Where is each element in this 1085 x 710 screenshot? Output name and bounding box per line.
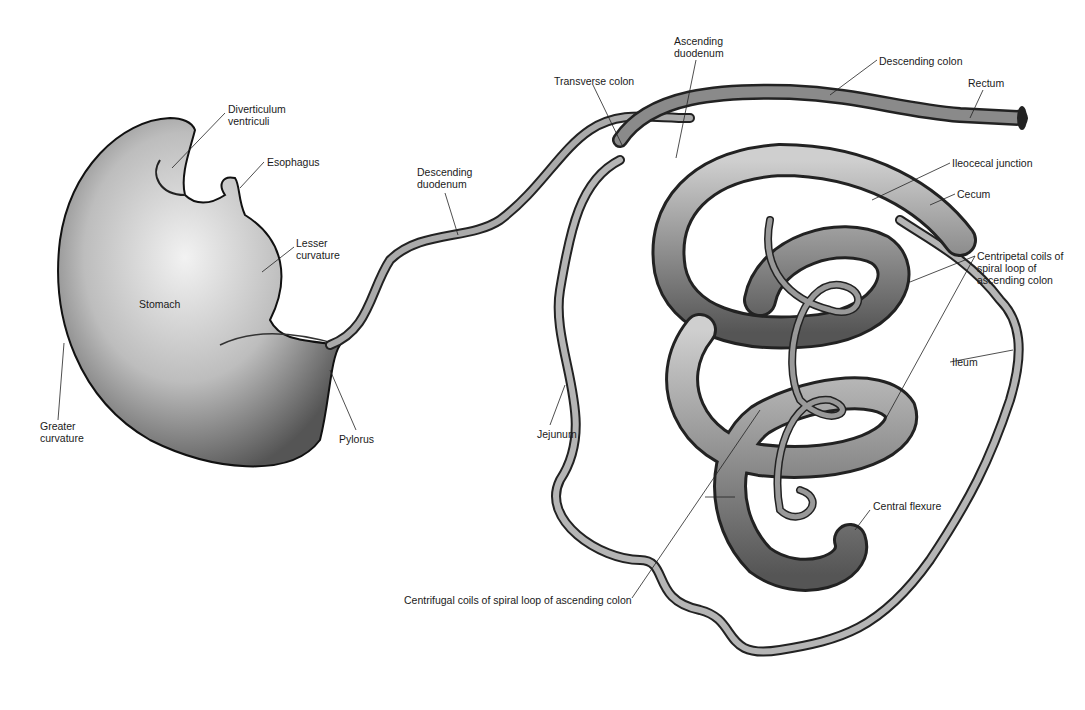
label-central-flexure: Central flexure <box>873 500 941 512</box>
label-pylorus: Pylorus <box>339 433 374 445</box>
label-ileocecal-junction: Ileocecal junction <box>952 157 1033 169</box>
label-lesser-curvature: Lesser curvature <box>296 237 340 261</box>
label-transverse-colon: Transverse colon <box>554 75 634 87</box>
label-descending-duodenum: Descending duodenum <box>417 166 472 190</box>
label-rectum: Rectum <box>968 77 1004 89</box>
label-jejunum: Jejunum <box>537 428 577 440</box>
label-centripetal-coils: Centripetal coils of spiral loop of asce… <box>977 250 1063 286</box>
label-stomach: Stomach <box>139 298 180 310</box>
label-cecum: Cecum <box>957 188 990 200</box>
stomach <box>58 118 340 466</box>
label-esophagus: Esophagus <box>267 156 320 168</box>
label-descending-colon: Descending colon <box>879 55 962 67</box>
label-ileum: Ileum <box>952 356 978 368</box>
label-greater-curvature: Greater curvature <box>40 420 84 444</box>
label-diverticulum-ventriculi: Diverticulum ventriculi <box>228 103 286 127</box>
label-centrifugal-coils: Centrifugal coils of spiral loop of asce… <box>404 594 632 606</box>
label-ascending-duodenum: Ascending duodenum <box>674 35 724 59</box>
